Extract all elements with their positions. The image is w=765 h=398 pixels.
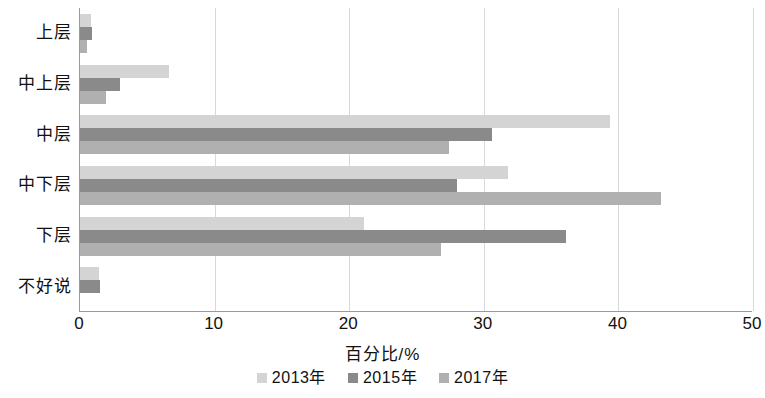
bar	[80, 280, 100, 293]
legend-swatch-icon	[348, 373, 358, 383]
bar	[80, 27, 92, 40]
bar	[80, 14, 91, 27]
bar	[80, 115, 610, 128]
bar	[80, 267, 99, 280]
x-axis-title: 百分比/%	[0, 340, 765, 365]
bar	[80, 192, 661, 205]
bar	[80, 230, 566, 243]
y-axis-label: 不好说	[18, 278, 72, 295]
bar	[80, 217, 364, 230]
legend-item[interactable]: 2013年	[257, 370, 326, 386]
bar-group	[80, 166, 752, 205]
plot-area	[79, 8, 752, 312]
gridline	[753, 8, 754, 311]
legend-label: 2013年	[272, 370, 326, 386]
bar-group	[80, 14, 752, 53]
y-axis-category-labels: 上层中上层中层中下层下层不好说	[0, 8, 72, 312]
bar	[80, 78, 120, 91]
x-axis-tick-label: 40	[608, 314, 627, 334]
bar-group	[80, 65, 752, 104]
bar-group	[80, 217, 752, 256]
legend: 2013年2015年2017年	[0, 370, 765, 386]
legend-swatch-icon	[257, 373, 267, 383]
legend-swatch-icon	[439, 373, 449, 383]
bar	[80, 91, 106, 104]
y-axis-label: 下层	[36, 227, 72, 244]
x-axis-tick-label: 50	[743, 314, 762, 334]
y-axis-label: 上层	[36, 24, 72, 41]
bar-chart: 上层中上层中层中下层下层不好说 01020304050 百分比/% 2013年2…	[0, 0, 765, 398]
legend-label: 2017年	[454, 370, 508, 386]
bar-group	[80, 115, 752, 154]
y-axis-label: 中下层	[18, 176, 72, 193]
legend-label: 2015年	[363, 370, 417, 386]
bar	[80, 40, 87, 53]
legend-item[interactable]: 2015年	[348, 370, 417, 386]
x-axis-tick-label: 30	[473, 314, 492, 334]
y-axis-label: 中层	[36, 126, 72, 143]
bar	[80, 179, 457, 192]
bar	[80, 128, 492, 141]
bar	[80, 243, 441, 256]
bars-layer	[80, 8, 752, 311]
x-axis-tick-label: 20	[339, 314, 358, 334]
bar	[80, 141, 449, 154]
x-axis-tick-label: 0	[74, 314, 83, 334]
x-axis-tick-label: 10	[204, 314, 223, 334]
legend-item[interactable]: 2017年	[439, 370, 508, 386]
y-axis-label: 中上层	[18, 75, 72, 92]
bar-group	[80, 267, 752, 306]
bar	[80, 166, 508, 179]
x-axis-tick-labels: 01020304050	[0, 314, 765, 338]
bar	[80, 65, 169, 78]
